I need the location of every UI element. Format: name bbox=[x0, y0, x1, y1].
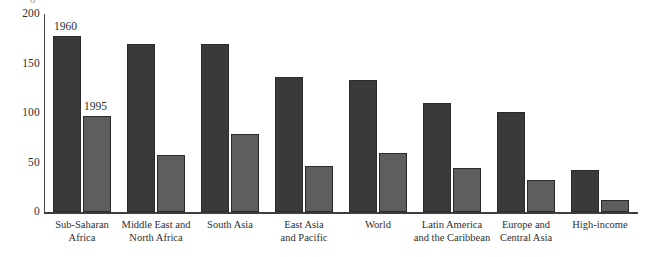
bar-1995-5 bbox=[453, 168, 481, 212]
bar-1995-4 bbox=[379, 153, 407, 212]
bar-1960-4 bbox=[349, 80, 377, 212]
bar-1995-1 bbox=[157, 155, 185, 212]
bar-1995-0 bbox=[83, 116, 111, 212]
bar-chart: 0 050100150200 Sub-SaharanAfricaMiddle E… bbox=[0, 0, 645, 257]
y-tick-label-150: 150 bbox=[4, 58, 40, 70]
bar-1995-7 bbox=[601, 200, 629, 212]
bar-group bbox=[275, 14, 333, 212]
bar-group bbox=[423, 14, 481, 212]
bar-1995-2 bbox=[231, 134, 259, 212]
bar-1960-5 bbox=[423, 103, 451, 212]
bar-1960-3 bbox=[275, 77, 303, 212]
bar-1960-7 bbox=[571, 170, 599, 212]
category-label-line: High-income bbox=[547, 219, 645, 232]
x-axis-baseline bbox=[44, 212, 638, 214]
category-labels: Sub-SaharanAfricaMiddle East andNorth Af… bbox=[45, 219, 637, 257]
bar-1995-3 bbox=[305, 166, 333, 212]
bar-1995-6 bbox=[527, 180, 555, 212]
bar-group bbox=[571, 14, 629, 212]
bar-group bbox=[127, 14, 185, 212]
bar-1960-0 bbox=[53, 36, 81, 212]
bar-group bbox=[349, 14, 407, 212]
category-label-line: Central Asia bbox=[473, 232, 580, 245]
bar-group bbox=[201, 14, 259, 212]
y-tick-label-100: 100 bbox=[4, 107, 40, 119]
y-tick-label-200: 200 bbox=[4, 8, 40, 20]
y-tick-label-50: 50 bbox=[4, 157, 40, 169]
bar-1960-2 bbox=[201, 44, 229, 212]
bar-group bbox=[497, 14, 555, 212]
series-annotation-1995: 1995 bbox=[84, 101, 107, 113]
series-annotation-1960: 1960 bbox=[54, 21, 77, 33]
y-tick-label-0: 0 bbox=[4, 206, 40, 218]
plot-area bbox=[45, 14, 637, 212]
bar-group bbox=[53, 14, 111, 212]
category-label-line: and Pacific bbox=[251, 232, 358, 245]
bar-1960-1 bbox=[127, 44, 155, 212]
bar-1960-6 bbox=[497, 112, 525, 212]
category-label-7: High-income bbox=[547, 219, 645, 232]
category-label-line: North Africa bbox=[103, 232, 210, 245]
